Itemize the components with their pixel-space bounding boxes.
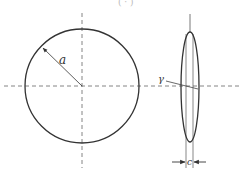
- radius-label: a: [59, 53, 66, 67]
- gamma-label: γ: [158, 73, 164, 84]
- thickness-label: c: [187, 157, 192, 167]
- clipped-top-text: ( · ): [118, 0, 134, 7]
- crack-geometry-diagram: ( · ) a γ c: [0, 0, 240, 177]
